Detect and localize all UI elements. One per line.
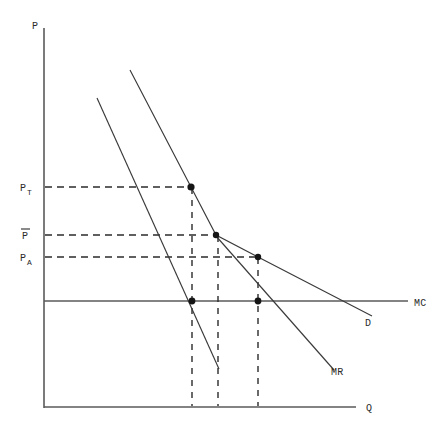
diagram-canvas: P Q P T P P A MC D MR [0, 0, 442, 439]
price-label-pbar-base: P [22, 231, 28, 242]
demand-point-lower [255, 254, 261, 260]
price-axis-labels: P T P P A [20, 183, 32, 267]
marginal-cost-label: MC [414, 298, 426, 309]
quantity-guide-lines [192, 188, 258, 406]
demand-point-upper [187, 183, 194, 190]
price-label-pa-base: P [20, 253, 26, 264]
price-guide-lines [45, 187, 258, 257]
mr-upper-mc-intersection-point [189, 298, 196, 305]
marginal-revenue-lower-segment [216, 236, 334, 370]
price-label-pa-subscript: A [27, 258, 32, 267]
kinked-demand-diagram: P Q P T P P A MC D MR [0, 0, 442, 439]
marginal-revenue-label: MR [331, 367, 343, 378]
x-axis-label: Q [366, 403, 372, 414]
price-label-pt: P T [20, 183, 32, 197]
demand-curve [130, 70, 372, 316]
price-label-pt-base: P [20, 183, 26, 194]
price-label-pbar: P [21, 229, 30, 242]
axes-group [44, 28, 356, 408]
mr-lower-mc-intersection-point [255, 298, 262, 305]
y-axis-label: P [32, 21, 38, 32]
price-label-pt-subscript: T [27, 188, 32, 197]
price-label-pa: P A [20, 253, 32, 267]
demand-kink-point [213, 232, 219, 238]
demand-curve-label: D [365, 318, 371, 329]
marginal-revenue-upper-segment [97, 98, 219, 369]
